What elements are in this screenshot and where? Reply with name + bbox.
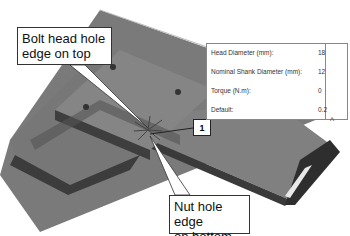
callout-text: Nut hole edge — [174, 199, 245, 229]
nut-hole-callout: Nut hole edge on bottom — [169, 195, 250, 234]
hole — [175, 89, 181, 95]
property-label: Nominal Shank Diameter (mm): — [211, 63, 302, 81]
property-label: Head Diameter (mm): — [211, 44, 273, 62]
property-label: Default: — [211, 101, 233, 119]
property-value[interactable]: 12 — [318, 63, 325, 81]
property-label: Torque (N.m): — [211, 82, 251, 100]
callout-text: edge on top — [22, 46, 107, 61]
property-row: Default: 0.2 — [211, 101, 347, 119]
property-row: Nominal Shank Diameter (mm): 12 — [211, 63, 347, 81]
callout-text: on bottom — [174, 229, 245, 236]
collapse-caret-icon[interactable]: ^ — [330, 116, 334, 126]
bolt-properties-panel: Head Diameter (mm): 18 Nominal Shank Dia… — [206, 43, 348, 120]
hole — [83, 104, 89, 110]
property-value[interactable]: 0.2 — [318, 101, 327, 119]
property-row: Head Diameter (mm): 18 — [211, 44, 347, 62]
property-row: Torque (N.m): 0 — [211, 82, 347, 100]
property-value[interactable]: 18 — [318, 44, 325, 62]
bolt-head-callout: Bolt head hole edge on top — [17, 27, 112, 65]
marker-number-tag[interactable]: 1 — [193, 119, 211, 136]
property-value[interactable]: 0 — [318, 82, 322, 100]
callout-text: Bolt head hole — [22, 31, 107, 46]
